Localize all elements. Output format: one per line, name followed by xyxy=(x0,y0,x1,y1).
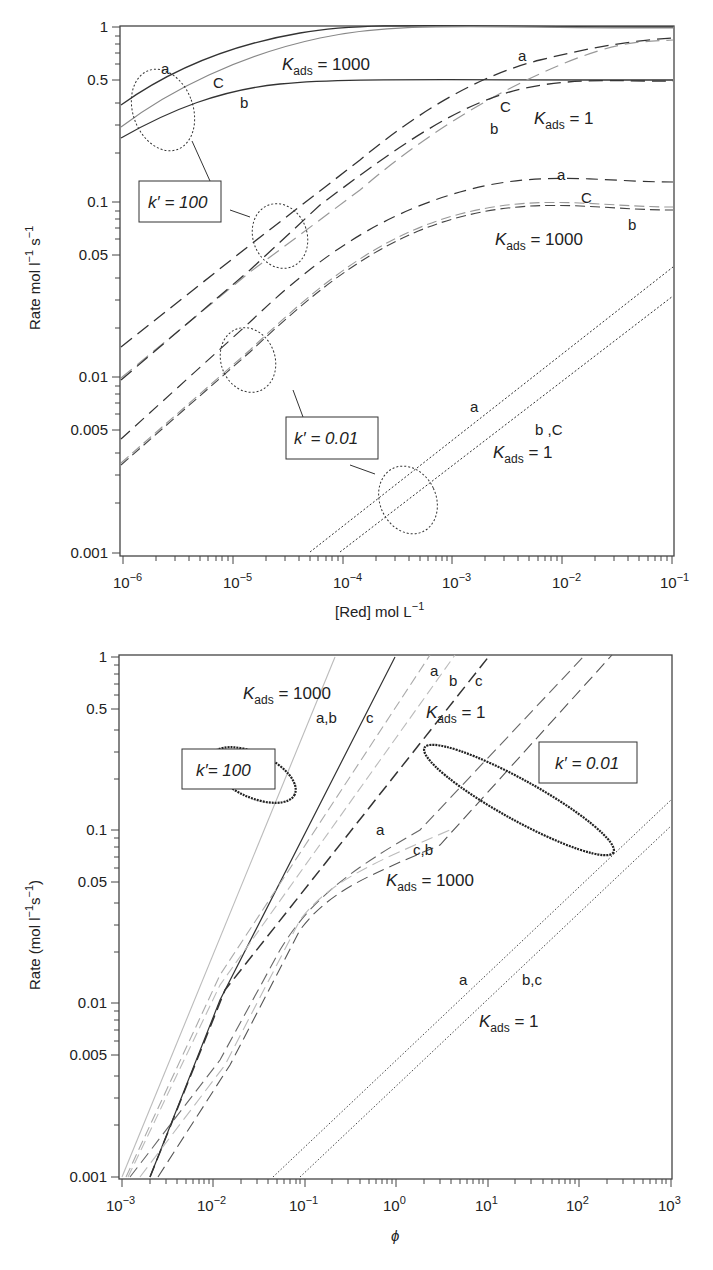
x-tick-label: 10−2 xyxy=(197,1194,226,1214)
y-tick-label: 0.001 xyxy=(69,1168,107,1185)
bottom-box-k001: k′ = 0.01 xyxy=(539,742,637,783)
box-k100-label: k′= 100 xyxy=(196,761,251,780)
series-k001-kads1-a xyxy=(273,800,671,1177)
label-kads1000-top: Kads = 1000 xyxy=(243,684,331,707)
bottom-x-tick-labels: 10−3 10−2 10−1 100 101 102 103 xyxy=(106,1194,681,1214)
label-c: C xyxy=(581,189,592,206)
series-k001-kads1-bc xyxy=(340,296,673,552)
box-k001-label: k′ = 0.01 xyxy=(294,429,358,448)
bottom-y-tick-labels: 1 0.5 0.1 0.05 0.01 0.005 0.001 xyxy=(69,648,107,1185)
x-tick-label: 101 xyxy=(475,1194,498,1214)
label-b: b xyxy=(628,216,636,233)
y-tick-label: 0.5 xyxy=(87,71,108,88)
x-tick-label: 10−3 xyxy=(106,1194,135,1214)
box-k001-label: k′ = 0.01 xyxy=(555,754,619,773)
label-c: c xyxy=(366,709,374,726)
x-tick-label: 10−5 xyxy=(223,571,252,591)
y-tick-label: 0.005 xyxy=(70,421,108,438)
series-k100-kads1-b xyxy=(128,655,455,1177)
series-k001-kads1000-b xyxy=(121,205,673,465)
series-k001-kads1000-a xyxy=(130,655,585,1177)
label-kads1-dot: Kads = 1 xyxy=(479,1012,539,1035)
bottom-plot-frame xyxy=(119,655,672,1179)
top-x-tick-labels: 10−6 10−5 10−4 10−3 10−2 10−1 xyxy=(113,571,689,591)
y-tick-label: 0.05 xyxy=(79,246,108,263)
y-tick-label: 0.005 xyxy=(69,1046,107,1063)
figure: 1 0.5 0.1 0.05 0.01 0.005 0.001 xyxy=(0,0,713,1270)
y-tick-label: 0.01 xyxy=(78,994,107,1011)
series-k001-kads1-bc xyxy=(300,826,671,1177)
label-kads1000-solid: Kads = 1000 xyxy=(282,55,370,78)
bottom-chart: 1 0.5 0.1 0.05 0.01 0.005 0.001 xyxy=(23,648,681,1244)
bottom-y-axis xyxy=(111,657,119,1177)
bottom-series-k001-kads1 xyxy=(273,800,671,1177)
label-b: b xyxy=(240,94,248,111)
series-k100-kads1000-a xyxy=(121,26,673,106)
x-tick-label: 10−6 xyxy=(113,571,142,591)
top-box-k001: k′ = 0.01 xyxy=(286,417,378,459)
series-k001-kads1-a xyxy=(310,267,673,552)
top-y-axis xyxy=(112,27,120,553)
bottom-x-axis-title: ϕ xyxy=(391,1227,399,1244)
top-y-tick-labels: 1 0.5 0.1 0.05 0.01 0.005 0.001 xyxy=(70,18,108,561)
y-tick-label: 1 xyxy=(99,648,107,665)
bottom-series-k100 xyxy=(122,655,490,1177)
label-kads1-dot: Kads = 1 xyxy=(493,443,553,466)
x-tick-label: 103 xyxy=(658,1194,681,1214)
x-tick-label: 10−2 xyxy=(552,571,581,591)
label-a: a xyxy=(459,971,468,988)
label-a: a xyxy=(518,47,527,64)
top-x-axis xyxy=(123,556,672,564)
label-a: a xyxy=(376,821,385,838)
label-b: b xyxy=(490,120,498,137)
label-kads1-top: Kads = 1 xyxy=(426,703,486,726)
top-series-dotted xyxy=(310,267,673,552)
series-k100-kads1-c xyxy=(150,655,490,1177)
bottom-curve-labels: Kads = 1000 a,b c a b c Kads = 1 a c,b K… xyxy=(243,662,543,1035)
y-tick-label: 0.05 xyxy=(78,873,107,890)
label-cb: c,b xyxy=(413,841,433,858)
label-c: C xyxy=(213,74,224,91)
ellipse-k100-dashed xyxy=(243,196,316,276)
x-tick-label: 10−1 xyxy=(660,571,689,591)
label-bc: b ,C xyxy=(535,421,563,438)
x-tick-label: 10−3 xyxy=(442,571,471,591)
top-y-axis-title: Rate mol l−1 s−1 xyxy=(23,226,43,330)
ellipse-k001-dashed xyxy=(211,320,284,400)
label-a: a xyxy=(557,166,566,183)
x-tick-label: 10−1 xyxy=(289,1194,318,1214)
x-tick-label: 100 xyxy=(383,1194,406,1214)
x-tick-label: 102 xyxy=(566,1194,589,1214)
label-c: c xyxy=(475,672,483,689)
bottom-series-k001-kads1000 xyxy=(130,655,612,1177)
series-k100-kads1000-c xyxy=(150,657,395,1177)
y-tick-label: 0.01 xyxy=(79,368,108,385)
label-a: a xyxy=(470,398,479,415)
label-a: a xyxy=(430,662,439,679)
series-k001-kads1000-cb xyxy=(158,655,612,1177)
top-plot-frame xyxy=(120,26,674,556)
bottom-box-k100: k′= 100 xyxy=(182,749,275,789)
top-curve-labels: a C b Kads = 1000 a C b Kads = 1 a C b K… xyxy=(161,47,636,466)
series-k001-kads1000-c xyxy=(121,202,673,463)
top-box-k100: k′ = 100 xyxy=(139,181,221,222)
bottom-y-axis-title: Rate (mol l−1s−1) xyxy=(23,880,43,990)
top-x-axis-title: [Red] mol L−1 xyxy=(335,600,424,620)
y-tick-label: 0.001 xyxy=(70,544,108,561)
bottom-x-axis xyxy=(122,1179,671,1187)
top-chart: 1 0.5 0.1 0.05 0.01 0.005 0.001 xyxy=(23,18,689,620)
label-c: C xyxy=(500,98,511,115)
top-annotation-ellipses xyxy=(120,60,448,543)
y-tick-label: 0.1 xyxy=(86,821,107,838)
y-tick-label: 0.1 xyxy=(87,193,108,210)
y-tick-label: 1 xyxy=(100,18,108,35)
y-tick-label: 0.5 xyxy=(86,700,107,717)
label-bc: b,c xyxy=(522,971,543,988)
x-tick-label: 10−4 xyxy=(333,571,362,591)
series-k100-kads1-a xyxy=(126,655,430,1177)
label-ab: a,b xyxy=(316,709,337,726)
label-b: b xyxy=(449,672,457,689)
label-kads1000-mid: Kads = 1000 xyxy=(386,871,474,894)
label-kads1000-dash: Kads = 1000 xyxy=(495,230,583,253)
box-k100-label: k′ = 100 xyxy=(148,193,208,212)
